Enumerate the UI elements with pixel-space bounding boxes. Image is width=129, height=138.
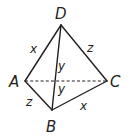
vertex-label-d: D [55, 5, 67, 23]
vertex-label-c: C [110, 73, 121, 91]
edge-label-ab: z [25, 95, 33, 109]
edge-label-ac: y [57, 82, 66, 96]
vertex-label-a: A [8, 73, 19, 91]
edge-label-bc: x [79, 99, 88, 113]
tetrahedron-diagram: D A C B x z y y z x [0, 0, 129, 138]
edge-label-db: y [57, 59, 66, 73]
edge-dc [61, 25, 107, 81]
edge-label-dc: z [86, 41, 94, 55]
vertex-label-b: B [46, 118, 56, 136]
edge-label-ad: x [29, 42, 38, 56]
